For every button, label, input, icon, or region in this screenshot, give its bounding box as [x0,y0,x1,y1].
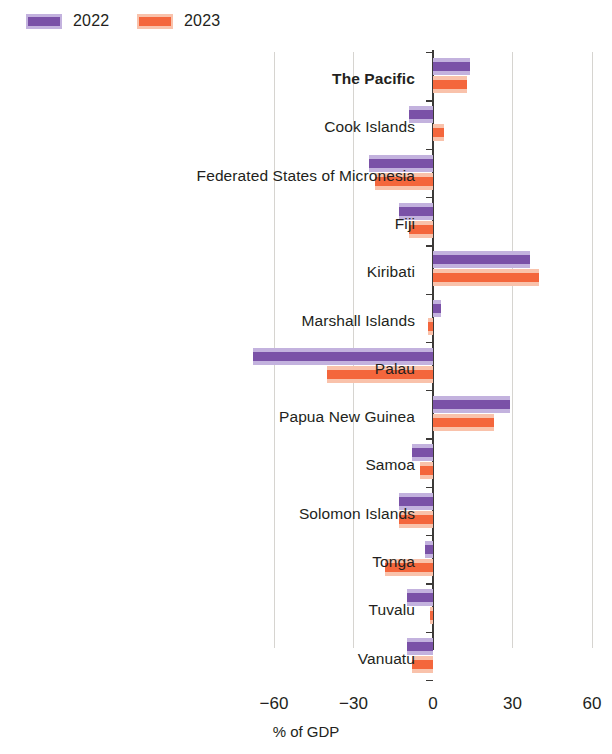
chart-x-axis: −60−3003060 % of GDP [0,692,612,754]
row-tick [426,583,433,584]
gridline-30 [512,52,513,648]
bar-2023 [433,414,494,431]
row-tick [426,680,433,681]
category-label: Kiribati [165,264,415,280]
category-label: Palau [165,361,415,377]
category-label: Vanuatu [165,651,415,667]
x-axis-title: % of GDP [0,723,612,740]
category-label: The Pacific [165,71,415,87]
bar-2022 [433,396,510,413]
bar-2023 [420,462,433,479]
row-tick [426,294,433,295]
bar-2022 [433,300,441,317]
row-tick [426,438,433,439]
bar-2023 [433,269,539,286]
row-tick [426,52,433,53]
category-label: Cook Islands [165,119,415,135]
category-label: Marshall Islands [165,313,415,329]
row-tick [426,245,433,246]
bar-2023 [433,76,467,93]
legend-item-2022: 2022 [26,12,109,30]
row-tick [426,149,433,150]
bar-2022 [433,58,470,75]
row-tick [426,632,433,633]
x-tick-label: −30 [339,694,368,714]
chart-legend: 2022 2023 [0,0,612,40]
bar-2023 [433,124,444,141]
category-label: Federated States of Micronesia [165,168,415,184]
chart-plot-area: The PacificCook IslandsFederated States … [0,44,612,692]
legend-label-2022: 2022 [73,12,109,30]
bar-2022 [425,541,433,558]
category-label: Tuvalu [165,602,415,618]
category-label: Fiji [165,216,415,232]
row-tick [426,342,433,343]
x-tick-label: 60 [583,694,602,714]
x-tick-label: −60 [260,694,289,714]
row-tick [426,100,433,101]
gridline-60 [592,52,593,648]
category-label: Solomon Islands [165,506,415,522]
row-tick [426,535,433,536]
category-label: Papua New Guinea [165,409,415,425]
x-tick-label: 0 [428,694,437,714]
legend-swatch-2022 [26,14,62,29]
bar-2023 [430,607,433,624]
row-tick [426,197,433,198]
bar-2023 [428,318,433,335]
row-tick [426,390,433,391]
bar-2022 [433,251,530,268]
legend-label-2023: 2023 [184,12,220,30]
x-tick-label: 30 [503,694,522,714]
row-tick [426,487,433,488]
category-label: Samoa [165,457,415,473]
category-label: Tonga [165,554,415,570]
legend-swatch-2023 [137,14,173,29]
legend-item-2023: 2023 [137,12,220,30]
